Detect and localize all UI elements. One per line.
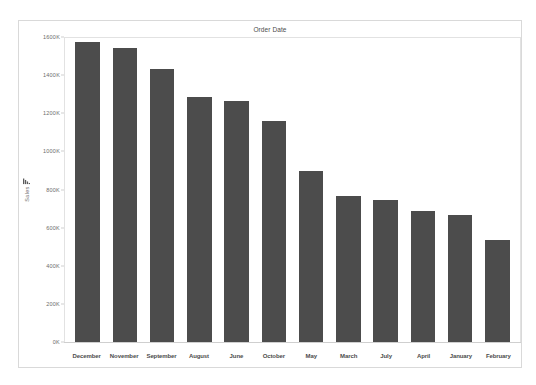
bar[interactable]: [411, 211, 436, 343]
bar-slot: [479, 38, 516, 343]
x-axis-tick-label[interactable]: July: [380, 353, 392, 359]
x-axis-tick-label[interactable]: April: [417, 353, 430, 359]
y-axis-tick-label: 1400K: [43, 72, 60, 78]
bar-slot: [69, 38, 106, 343]
x-axis-tick-label[interactable]: October: [263, 353, 285, 359]
bar[interactable]: [448, 215, 473, 343]
y-axis-title-group: Sales: [23, 178, 30, 201]
x-axis-tick: July: [367, 344, 404, 362]
bar[interactable]: [262, 121, 287, 343]
x-axis-tick: February: [480, 344, 517, 362]
bar-slot: [442, 38, 479, 343]
bar-slot: [404, 38, 441, 343]
bar[interactable]: [224, 101, 249, 343]
bar-slot: [367, 38, 404, 343]
x-axis-tick: August: [180, 344, 217, 362]
bar[interactable]: [485, 240, 510, 343]
bar[interactable]: [113, 48, 138, 343]
y-axis-tick-label: 1000K: [43, 148, 60, 154]
x-axis-tick: June: [218, 344, 255, 362]
bar-chart-icon: [23, 178, 30, 184]
x-axis-tick-label[interactable]: May: [306, 353, 317, 359]
x-axis-tick-label[interactable]: March: [340, 353, 357, 359]
bar-slot: [144, 38, 181, 343]
x-axis-tick-label[interactable]: December: [73, 353, 101, 359]
y-axis-tick-label: 200K: [46, 301, 60, 307]
y-axis-tick-label: 1200K: [43, 110, 60, 116]
y-axis-tick-label: 800K: [46, 187, 60, 193]
bar-slot: [293, 38, 330, 343]
bar[interactable]: [75, 42, 100, 343]
chart-container: Order Date Sales 0K200K400K600K800K1000K…: [18, 20, 522, 368]
y-axis-tick-label: 400K: [46, 263, 60, 269]
bar[interactable]: [336, 196, 361, 343]
x-axis-tick: March: [330, 344, 367, 362]
x-axis-tick-label[interactable]: January: [450, 353, 472, 359]
bar-slot: [181, 38, 218, 343]
x-axis-baseline: [64, 342, 521, 343]
x-axis: DecemberNovemberSeptemberAugustJuneOctob…: [64, 344, 521, 362]
y-axis-tick-label: 0K: [53, 339, 60, 345]
y-axis-tick-label: 600K: [46, 225, 60, 231]
bar[interactable]: [187, 97, 212, 343]
x-axis-tick-label[interactable]: September: [146, 353, 176, 359]
bars-layer: [65, 38, 520, 343]
bar-slot: [218, 38, 255, 343]
bar[interactable]: [373, 200, 398, 343]
y-axis-tick-label: 1600K: [43, 34, 60, 40]
x-axis-tick: May: [293, 344, 330, 362]
x-axis-tick: September: [143, 344, 180, 362]
x-axis-tick: December: [68, 344, 105, 362]
x-axis-tick: January: [442, 344, 479, 362]
x-axis-tick-label[interactable]: June: [230, 353, 244, 359]
y-axis: Sales 0K200K400K600K800K1000K1200K1400K1…: [19, 37, 64, 343]
bar-slot: [255, 38, 292, 343]
x-axis-tick-label[interactable]: February: [486, 353, 511, 359]
bar[interactable]: [299, 171, 324, 343]
bar-slot: [330, 38, 367, 343]
x-axis-tick: November: [105, 344, 142, 362]
x-axis-tick: October: [255, 344, 292, 362]
x-axis-tick-label[interactable]: November: [110, 353, 139, 359]
x-axis-tick-label[interactable]: August: [189, 353, 209, 359]
bar[interactable]: [150, 69, 175, 344]
chart-title: Order Date: [19, 26, 521, 33]
bar-slot: [106, 38, 143, 343]
y-axis-label: Sales: [24, 186, 30, 201]
x-axis-tick: April: [405, 344, 442, 362]
plot-area: [64, 37, 521, 343]
